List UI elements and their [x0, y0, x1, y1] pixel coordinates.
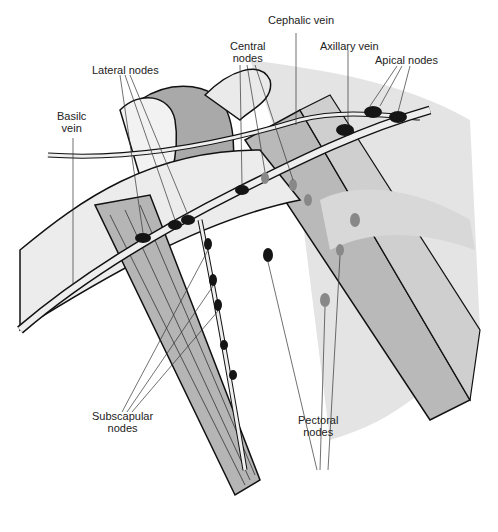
- label-lateral-nodes: Lateral nodes: [92, 64, 159, 76]
- label-pectoral-nodes: Pectoral nodes: [298, 414, 338, 438]
- label-apical-nodes: Apical nodes: [375, 54, 438, 66]
- label-axillary-vein: Axillary vein: [320, 40, 379, 52]
- label-cephalic-vein: Cephalic vein: [268, 14, 334, 26]
- label-subscapular-nodes: Subscapular nodes: [92, 410, 153, 434]
- label-central-nodes: Central nodes: [230, 40, 265, 64]
- anatomy-illustration: [0, 0, 498, 532]
- label-basilic-vein: Basilc vein: [57, 110, 86, 134]
- axillary-lymph-node-diagram: Cephalic vein Central nodes Axillary vei…: [0, 0, 498, 532]
